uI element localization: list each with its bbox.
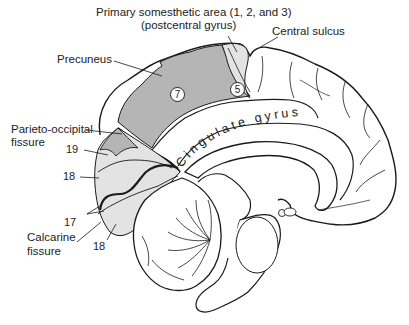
pons: [236, 217, 278, 273]
area-18-upper-label: 18: [63, 170, 75, 182]
area-17-label: 17: [64, 216, 76, 228]
central-sulcus-label: Central sulcus: [272, 25, 345, 38]
parieto-occipital-label-line1: Parieto-occipital: [11, 123, 93, 136]
primary-somesthetic-label-line2: (postcentral gyrus): [141, 19, 236, 32]
parieto-occipital-label-line2: fissure: [11, 136, 45, 149]
area-5-marker: 5: [230, 82, 245, 97]
area-18-lower-label: 18: [93, 240, 105, 252]
calcarine-label-line2: fissure: [27, 245, 61, 258]
brain-drawing: Cingulate gyrus: [0, 0, 409, 325]
calcarine-label-line1: Calcarine: [27, 231, 76, 244]
brain-medial-diagram: Cingulate gyrus Primary somesthetic area…: [0, 0, 409, 325]
precuneus-label: Precuneus: [57, 53, 112, 66]
primary-somesthetic-label-line1: Primary somesthetic area (1, 2, and 3): [96, 6, 292, 19]
area-19-label: 19: [66, 143, 78, 155]
area-7-marker: 7: [170, 87, 185, 102]
